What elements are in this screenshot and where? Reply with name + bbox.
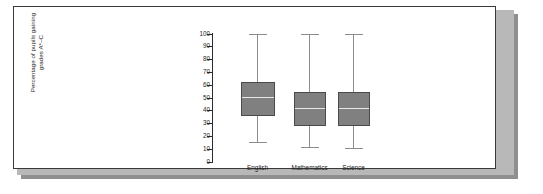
whisker-cap-lower — [301, 147, 319, 148]
box-english — [241, 82, 275, 117]
y-axis-label-line2: grades A*–C — [37, 35, 44, 70]
whisker-lower — [353, 126, 354, 148]
whisker-lower — [257, 116, 258, 142]
figure-card: Percentage of pupils gaininggrades A*–C … — [13, 6, 496, 169]
y-tick-label: 0 — [184, 158, 210, 165]
y-tick-label: 40 — [184, 107, 210, 114]
boxplot-chart: Percentage of pupils gaininggrades A*–C … — [14, 7, 497, 170]
screenshot-root: Percentage of pupils gaininggrades A*–C … — [0, 0, 543, 194]
whisker-cap-upper — [345, 34, 363, 35]
y-tick-label: 20 — [184, 132, 210, 139]
median-line — [339, 108, 369, 109]
y-tick-label: 70 — [184, 68, 210, 75]
whisker-lower — [309, 126, 310, 148]
whisker-cap-upper — [249, 34, 267, 35]
whisker-cap-lower — [345, 148, 363, 149]
y-axis-line — [212, 33, 213, 163]
median-line — [242, 97, 274, 98]
whisker-upper — [257, 34, 258, 82]
y-tick-label: 90 — [184, 43, 210, 50]
y-tick-label: 30 — [184, 119, 210, 126]
whisker-cap-upper — [301, 34, 319, 35]
whisker-upper — [353, 34, 354, 92]
whisker-upper — [309, 34, 310, 92]
y-tick-label: 60 — [184, 81, 210, 88]
y-tick-label: 10 — [184, 145, 210, 152]
whisker-cap-lower — [249, 142, 267, 143]
y-tick-label: 80 — [184, 55, 210, 62]
median-line — [295, 108, 325, 109]
x-axis-label-science: Science — [319, 164, 389, 171]
y-axis-label: Percentage of pupils gaininggrades A*–C — [29, 0, 44, 108]
y-axis-label-line1: Percentage of pupils gaining — [29, 13, 36, 93]
y-tick-label: 50 — [184, 94, 210, 101]
y-tick-label: 100 — [184, 30, 210, 37]
